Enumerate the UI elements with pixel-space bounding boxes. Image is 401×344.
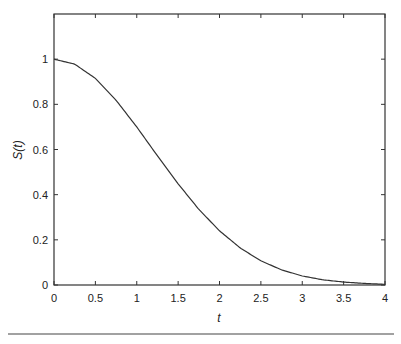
x-tick-label: 0.5: [88, 292, 103, 304]
x-tick-label: 2: [216, 292, 222, 304]
x-tick-label: 3: [299, 292, 305, 304]
survival-chart: 00.511.522.533.54 00.20.40.60.81 t S(t): [0, 0, 401, 344]
x-tick-label: 4: [382, 292, 388, 304]
x-tick-label: 1.5: [170, 292, 185, 304]
y-tick-label: 0.4: [33, 189, 48, 201]
x-tick-label: 1: [134, 292, 140, 304]
y-tick-label: 0: [42, 279, 48, 291]
x-tick-label: 0: [51, 292, 57, 304]
plot-frame: [54, 14, 385, 285]
y-tick-label: 0.2: [33, 234, 48, 246]
x-axis-ticks: 00.511.522.533.54: [51, 14, 388, 304]
y-tick-label: 0.6: [33, 144, 48, 156]
x-axis-label: t: [217, 311, 221, 325]
x-tick-label: 3.5: [336, 292, 351, 304]
x-tick-label: 2.5: [253, 292, 268, 304]
y-tick-label: 1: [42, 53, 48, 65]
survival-curve: [54, 59, 385, 284]
y-tick-label: 0.8: [33, 98, 48, 110]
y-axis-ticks: 00.20.40.60.81: [33, 53, 385, 291]
y-axis-label: S(t): [11, 140, 25, 159]
